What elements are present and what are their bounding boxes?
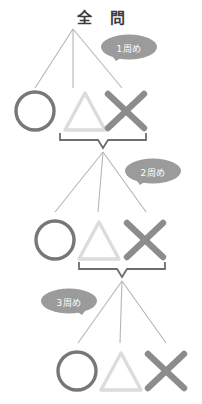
- branch-line-1-left: [35, 29, 73, 88]
- level-1-symbols: [16, 92, 144, 130]
- symbol-triangle-level-2: [79, 222, 119, 259]
- brace-level-2: [79, 262, 165, 277]
- round-bubble-label-2: 2周め: [124, 169, 182, 178]
- symbol-triangle-level-1: [65, 93, 105, 130]
- level-2-symbols: [36, 221, 163, 259]
- branch-line-3-right: [122, 281, 166, 343]
- round-bubble-2: 2周め: [124, 158, 182, 188]
- symbol-circle-level-2: [36, 221, 74, 259]
- brace-path-1: [60, 133, 146, 148]
- symbol-cross-level-1: [108, 94, 144, 128]
- symbol-cross-level-2: [127, 223, 163, 257]
- round-bubble-1: 1周め: [100, 34, 158, 64]
- brace-path-2: [79, 262, 165, 277]
- symbol-circle-level-3: [58, 352, 96, 390]
- branch-line-3-mid: [120, 281, 122, 343]
- branch-line-2-mid: [98, 152, 103, 212]
- round-bubble-3: 3周め: [40, 288, 98, 318]
- symbol-circle-level-1: [16, 92, 54, 130]
- brace-level-1: [60, 133, 146, 148]
- branch-line-2-left: [55, 152, 103, 212]
- round-bubble-label-1: 1周め: [100, 45, 158, 54]
- level-3-symbols: [58, 352, 184, 390]
- symbol-triangle-level-3: [101, 353, 141, 390]
- diagram-canvas: 全 問 1周め 2周め 3周め: [0, 0, 202, 404]
- symbol-cross-level-3: [148, 354, 184, 388]
- round-bubble-label-3: 3周め: [40, 299, 98, 308]
